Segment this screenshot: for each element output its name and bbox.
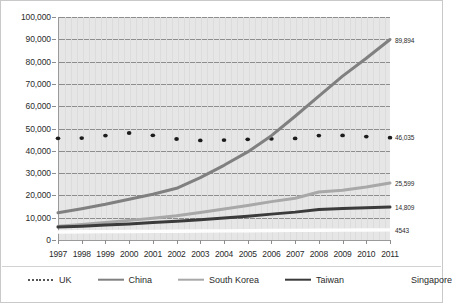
legend-item-taiwan[interactable]: Taiwan: [285, 275, 344, 285]
y-tick-label: 0: [46, 236, 51, 244]
x-tick-label: 1999: [94, 249, 118, 259]
y-tick-mark: [52, 17, 56, 18]
y-tick-mark: [52, 84, 56, 85]
legend-label: UK: [59, 275, 72, 285]
x-tick-mark: [58, 240, 59, 244]
legend-label: Taiwan: [316, 275, 344, 285]
series-end-labels: 46,03589,89425,59914,8094543: [393, 17, 444, 240]
y-tick-label: 10,000: [26, 214, 51, 222]
series-singapore: [58, 230, 390, 232]
y-tick-mark: [52, 195, 56, 196]
legend-item-china[interactable]: China: [98, 275, 153, 285]
y-tick-label: 60,000: [26, 102, 51, 110]
x-tick-mark: [366, 240, 367, 244]
y-tick-label: 20,000: [26, 191, 51, 199]
legend-label: Singapore: [411, 275, 452, 285]
x-tick-mark: [177, 240, 178, 244]
y-tick-mark: [52, 240, 56, 241]
y-tick-label: 100,000: [21, 13, 51, 21]
x-tick-label: 2001: [141, 249, 165, 259]
x-tick-mark: [390, 240, 391, 244]
y-tick-label: 70,000: [26, 80, 51, 88]
x-tick-mark: [224, 240, 225, 244]
end-label-taiwan: 14,809: [395, 203, 414, 210]
x-tick-label: 1998: [70, 249, 94, 259]
blank-line-marker: [388, 275, 406, 285]
end-label-south-korea: 25,599: [395, 179, 414, 186]
x-tick-mark: [319, 240, 320, 244]
x-tick-mark: [295, 240, 296, 244]
x-tick-label: 2004: [212, 249, 236, 259]
series-uk: [56, 131, 393, 142]
solid-line-marker: [285, 275, 311, 285]
y-tick-mark: [52, 151, 56, 152]
y-tick-label: 80,000: [26, 58, 51, 66]
end-label-china: 89,894: [395, 36, 414, 43]
x-tick-mark: [105, 240, 106, 244]
legend-item-south-korea[interactable]: South Korea: [178, 275, 259, 285]
x-tick-mark: [343, 240, 344, 244]
series-china: [58, 40, 390, 213]
x-tick-mark: [248, 240, 249, 244]
x-tick-label: 2003: [188, 249, 212, 259]
x-tick-label: 2006: [260, 249, 284, 259]
x-tick-mark: [82, 240, 83, 244]
x-tick-mark: [200, 240, 201, 244]
legend-item-uk[interactable]: UK: [28, 275, 72, 285]
series-lines: [58, 17, 390, 240]
x-tick-label: 2010: [354, 249, 378, 259]
y-tick-label: 50,000: [26, 125, 51, 133]
legend-label: China: [129, 275, 153, 285]
y-tick-mark: [52, 218, 56, 219]
x-tick-label: 2002: [165, 249, 189, 259]
x-tick-label: 2008: [307, 249, 331, 259]
legend-item-singapore[interactable]: Singapore: [388, 275, 452, 285]
x-tick-label: 1997: [46, 249, 70, 259]
plot-area-wrapper: [58, 17, 390, 240]
x-tick-label: 2000: [117, 249, 141, 259]
y-tick-label: 40,000: [26, 147, 51, 155]
y-tick-label: 30,000: [26, 169, 51, 177]
y-tick-label: 90,000: [26, 35, 51, 43]
x-tick-label: 2011: [378, 249, 402, 259]
x-tick-label: 2009: [331, 249, 355, 259]
dotted-line-marker: [28, 275, 54, 285]
x-tick-label: 2007: [283, 249, 307, 259]
y-tick-mark: [52, 62, 56, 63]
chart-legend: UKChinaSouth KoreaTaiwanSingapore: [2, 266, 441, 292]
solid-line-marker: [98, 275, 124, 285]
x-tick-mark: [129, 240, 130, 244]
x-axis: 1997199819992000200120022003200420052006…: [58, 240, 390, 264]
x-tick-label: 2005: [236, 249, 260, 259]
y-tick-mark: [52, 173, 56, 174]
y-tick-mark: [52, 129, 56, 130]
x-tick-mark: [153, 240, 154, 244]
legend-label: South Korea: [209, 275, 259, 285]
y-tick-mark: [52, 106, 56, 107]
end-label-singapore: 4543: [395, 226, 409, 233]
end-label-uk: 46,035: [395, 134, 414, 141]
solid-line-marker: [178, 275, 204, 285]
y-tick-mark: [52, 39, 56, 40]
y-axis: 010,00020,00030,00040,00050,00060,00070,…: [1, 17, 56, 240]
x-tick-mark: [271, 240, 272, 244]
